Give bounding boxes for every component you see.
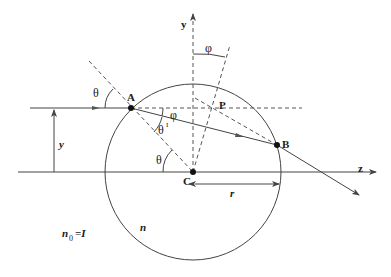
label-axis-y: y (181, 18, 187, 30)
label-height-y: y (57, 138, 64, 150)
label-theta-refracted: θ (158, 123, 164, 137)
label-point-C: C (183, 175, 191, 187)
label-axis-z: z (358, 162, 363, 174)
label-point-P: P (219, 99, 226, 111)
phi-at-A-arc (162, 108, 163, 116)
point-A-dot (128, 105, 134, 111)
label-outside-index-eq: =I (75, 227, 86, 239)
incident-ray-arrow (92, 106, 100, 110)
normal-at-A (89, 61, 193, 172)
refracted-ray (131, 108, 277, 145)
label-phi-top: φ (205, 41, 212, 55)
refracted-ray-arrow (235, 133, 244, 137)
label-theta-center: θ (156, 153, 162, 167)
label-sphere-index-n: n (140, 221, 146, 233)
label-phi-at-A: φ (170, 108, 177, 122)
point-B-dot (274, 142, 280, 148)
label-outside-index: n 0 =I (62, 227, 86, 243)
label-outside-index-sub: 0 (69, 234, 73, 243)
label-outside-index-base: n (62, 227, 68, 239)
sphere-refraction-diagram: y z A B C P θ θ θ I φ φ y r n n 0 =I (0, 0, 391, 277)
theta-center-arc (163, 150, 172, 172)
label-theta-incident: θ (93, 86, 99, 100)
label-point-A: A (127, 91, 135, 103)
label-theta-refracted-prime: I (166, 121, 169, 129)
label-radius-r: r (230, 187, 235, 199)
exit-ray (277, 145, 359, 195)
label-point-B: B (282, 138, 290, 150)
theta-incident-arc (105, 89, 113, 108)
